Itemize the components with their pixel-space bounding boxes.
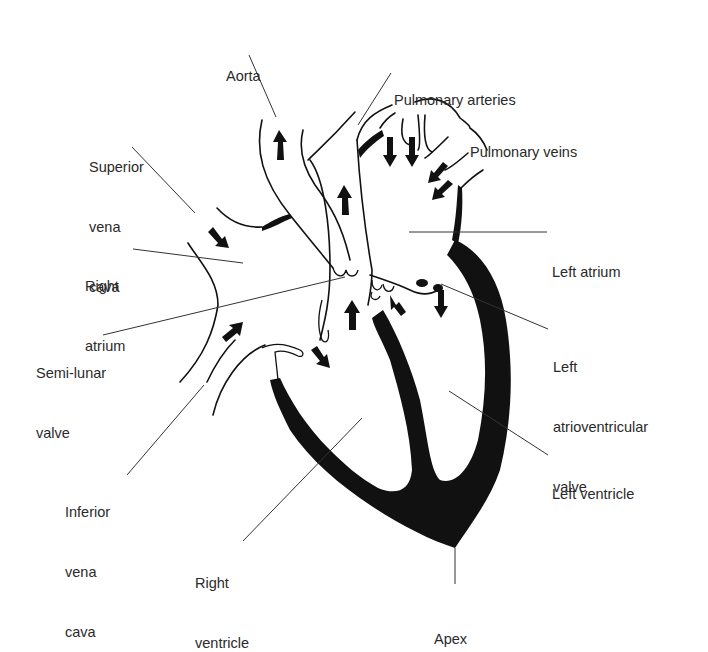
arrow-down-left-icon <box>428 162 448 183</box>
label-apex: Apex <box>434 589 467 652</box>
arrow-down-right-icon <box>311 346 330 368</box>
arrow-up-icon <box>337 185 352 215</box>
label-aorta: Aorta <box>226 26 261 126</box>
label-left-atrium: Left atrium <box>552 222 621 322</box>
label-inferior-vena-cava: Inferior vena cava <box>65 462 110 652</box>
arrow-down-right-icon <box>208 227 229 248</box>
arrow-down-left-icon <box>432 180 453 200</box>
arrow-up-left-icon <box>390 295 406 316</box>
arrow-up-icon <box>344 300 360 330</box>
arrow-down-icon <box>434 290 448 318</box>
arrow-up-right-icon <box>222 322 243 342</box>
label-left-ventricle: Left ventricle <box>552 444 634 544</box>
blood-flow-arrows <box>208 130 453 368</box>
label-semi-lunar-valve: Semi-lunar valve <box>36 323 106 483</box>
label-right-ventricle: Right ventricle <box>195 533 249 652</box>
label-pulmonary-veins: Pulmonary veins <box>470 102 577 202</box>
semi-lunar-valve-cusps <box>333 268 358 276</box>
arrow-up-icon <box>273 130 287 160</box>
